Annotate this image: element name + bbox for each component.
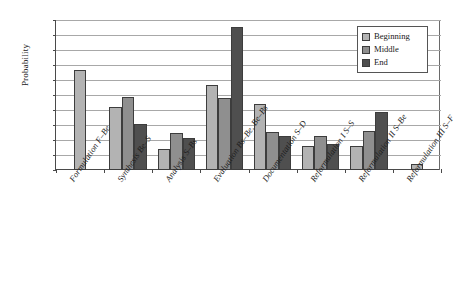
bar (206, 85, 219, 170)
x-tick-mark (249, 169, 250, 173)
legend-label: Middle (374, 45, 399, 54)
x-tick-mark (297, 169, 298, 173)
x-tick-mark (441, 169, 442, 173)
legend-swatch (362, 59, 370, 67)
bar-chart: Probability 1.00.90.80.70.60.50.40.30.20… (0, 0, 454, 303)
legend: BeginningMiddleEnd (357, 26, 428, 73)
bar (302, 146, 315, 170)
legend-item[interactable]: Middle (362, 43, 424, 56)
x-tick-mark (393, 169, 394, 173)
y-axis-title: Probability (20, 10, 30, 120)
legend-swatch (362, 33, 370, 41)
legend-item[interactable]: Beginning (362, 30, 424, 43)
bar (158, 149, 171, 170)
legend-label: Beginning (374, 32, 410, 41)
bar (109, 107, 122, 170)
legend-item[interactable]: End (362, 56, 424, 69)
x-tick-mark (56, 169, 57, 173)
x-tick-mark (104, 169, 105, 173)
legend-swatch (362, 46, 370, 54)
legend-label: End (374, 58, 388, 67)
bar (350, 146, 363, 170)
x-tick-mark (345, 169, 346, 173)
x-tick-mark (152, 169, 153, 173)
x-tick-mark (200, 169, 201, 173)
